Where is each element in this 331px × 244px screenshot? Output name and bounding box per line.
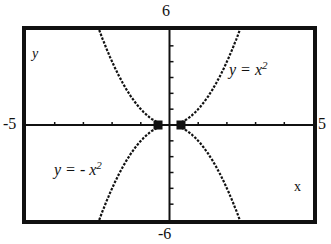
x-axis-label: x xyxy=(294,180,301,194)
equation-upper-exponent: 2 xyxy=(262,59,268,71)
x-min-label: -5 xyxy=(3,116,16,132)
equation-lower-exponent: 2 xyxy=(96,159,102,171)
equation-lower-text: y = - x xyxy=(54,161,96,178)
equation-label-lower: y = - x2 xyxy=(54,160,102,178)
axes xyxy=(26,30,313,220)
equation-upper-text: y = x xyxy=(229,61,262,78)
y-min-label: -6 xyxy=(158,226,171,242)
intersection-marker xyxy=(176,121,185,130)
x-max-label: 5 xyxy=(318,116,326,132)
y-axis-label: y xyxy=(32,47,38,61)
intersection-marker xyxy=(154,121,163,130)
graph-canvas xyxy=(0,0,331,244)
equation-label-upper: y = x2 xyxy=(229,60,268,78)
y-max-label: 6 xyxy=(162,3,170,19)
